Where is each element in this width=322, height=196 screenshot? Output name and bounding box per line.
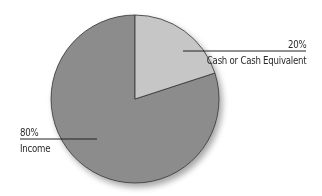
cash-name-label: Cash or Cash Equivalent: [207, 54, 306, 66]
income-name-label: Income: [20, 142, 50, 154]
income-percent-label: 80%: [20, 126, 38, 138]
cash-percent-label: 20%: [288, 38, 306, 50]
pie: [51, 15, 219, 183]
pie-chart: [0, 0, 322, 196]
